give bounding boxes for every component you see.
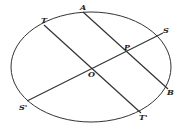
label-o: O	[88, 69, 95, 79]
label-p: P	[123, 42, 131, 52]
diameter-ss	[27, 33, 163, 101]
label-t: T	[41, 15, 48, 25]
label-t-prime: T'	[139, 112, 147, 122]
label-s: S	[163, 25, 169, 35]
label-s-prime: S'	[19, 102, 27, 112]
label-a: A	[79, 2, 86, 12]
label-b: B	[166, 87, 174, 97]
ellipse-diagram: A T S P O B S' T'	[0, 0, 183, 135]
